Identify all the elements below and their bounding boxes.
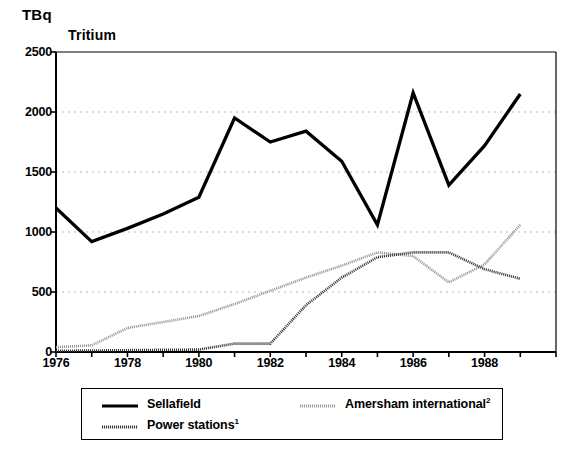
plot-canvas xyxy=(0,0,575,452)
axis-lines xyxy=(56,52,556,352)
tritium-discharges-chart: TBq Tritium 05001000150020002500 1976197… xyxy=(0,0,575,452)
legend-item-power-stations[interactable]: Power stations1 xyxy=(102,416,239,434)
legend-label-sellafield: Sellafield xyxy=(147,397,201,411)
legend-swatch-amersham-international xyxy=(300,398,336,410)
legend-footnote-1: 1 xyxy=(235,417,239,426)
series-line-amersham-international xyxy=(56,225,520,347)
legend-footnote-2: 2 xyxy=(486,396,490,405)
chart-legend: Sellafield Power stations1 Amersham inte… xyxy=(81,388,503,440)
series-line-power-stations xyxy=(56,252,520,350)
legend-label-amersham-international: Amersham international2 xyxy=(345,397,490,411)
legend-swatch-power-stations xyxy=(102,419,138,431)
axis-tick-marks xyxy=(51,52,556,357)
series-line-sellafield xyxy=(56,93,520,242)
legend-item-amersham-international[interactable]: Amersham international2 xyxy=(300,395,490,413)
legend-label-power-stations: Power stations1 xyxy=(147,418,239,432)
legend-swatch-sellafield xyxy=(102,398,138,410)
data-series-layer xyxy=(56,93,520,351)
legend-item-sellafield[interactable]: Sellafield xyxy=(102,395,201,413)
